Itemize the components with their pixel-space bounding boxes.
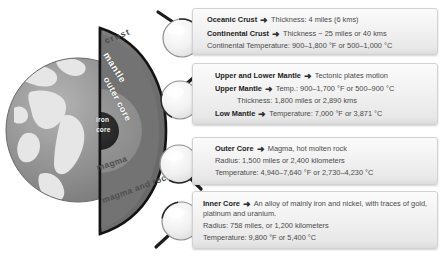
outer-core-line-1-value: Magma, hot molten rock <box>268 144 347 153</box>
crust-line-3-value: Continental Temperature: 900–1,800 °F or… <box>207 41 392 50</box>
outer-core-line-2: Radius: 1,500 miles or 2,400 kilometers <box>215 157 437 165</box>
crust-line-2-value: Thickness ~ 25 miles or 40 kms <box>283 29 387 38</box>
arrow-icon: ➜ <box>303 72 313 81</box>
mantle-line-1-term: Upper and Lower Mantle <box>215 71 301 80</box>
crust-line-1-term: Oceanic Crust <box>207 15 257 24</box>
inner-core-line-3: Temperature: 9,800 °F or 5,400 °C <box>203 234 437 242</box>
diagram-canvas: crust mantle outer core iron core magma … <box>0 0 440 261</box>
outer-core-line-3: Temperature: 4,940–7,640 °F or 2,730–4,2… <box>215 169 437 177</box>
outer-core-line-2-value: Radius: 1,500 miles or 2,400 kilometers <box>215 156 345 165</box>
mantle-line-3-value: Thickness: 1,800 miles or 2,890 kms <box>237 96 357 105</box>
arrow-icon: ➜ <box>271 29 281 38</box>
mantle-line-4-term: Low Mantle <box>215 109 255 118</box>
arrow-icon: ➜ <box>264 85 274 94</box>
arrow-icon: ➜ <box>257 110 267 119</box>
crust-line-2: Continental Crust ➜ Thickness ~ 25 miles… <box>207 29 437 38</box>
info-box-crust: Oceanic Crust ➜ Thickness: 4 miles (6 km… <box>192 8 438 55</box>
outer-core-line-1: Outer Core ➜ Magma, hot molten rock <box>215 144 437 153</box>
arrow-icon: ➜ <box>242 199 252 210</box>
crust-line-1: Oceanic Crust ➜ Thickness: 4 miles (6 km… <box>207 15 437 24</box>
outer-core-line-1-term: Outer Core <box>215 144 254 153</box>
mantle-line-3: Thickness: 1,800 miles or 2,890 kms <box>215 97 437 105</box>
mantle-line-2-term: Upper Mantle <box>215 84 262 93</box>
inner-core-line-1: Inner Core ➜ An alloy of mainly iron and… <box>203 198 437 218</box>
inner-core-line-2: Radius: 758 miles, or 1,200 kilometers <box>203 222 437 230</box>
info-box-outer-core: Outer Core ➜ Magma, hot molten rock Radi… <box>192 137 438 185</box>
mantle-line-2-value: Temp.: 900–1,700 °F or 500–900 °C <box>276 84 395 93</box>
crust-line-3: Continental Temperature: 900–1,800 °F or… <box>207 42 437 50</box>
mantle-line-2: Upper Mantle ➜ Temp.: 900–1,700 °F or 50… <box>215 84 437 93</box>
inner-core-line-2-value: Radius: 758 miles, or 1,200 kilometers <box>203 221 329 230</box>
mantle-line-4-value: Temperature: 7,000 °F or 3,871 °C <box>269 109 382 118</box>
mantle-line-1: Upper and Lower Mantle ➜ Tectonic plates… <box>215 71 437 80</box>
info-box-mantle: Upper and Lower Mantle ➜ Tectonic plates… <box>192 63 438 125</box>
info-box-inner-core: Inner Core ➜ An alloy of mainly iron and… <box>192 191 438 249</box>
outer-core-line-3-value: Temperature: 4,940–7,640 °F or 2,730–4,2… <box>215 168 373 177</box>
inner-core-line-3-value: Temperature: 9,800 °F or 5,400 °C <box>203 233 316 242</box>
crust-line-1-value: Thickness: 4 miles (6 kms) <box>271 15 358 24</box>
crust-line-2-term: Continental Crust <box>207 29 269 38</box>
mantle-line-4: Low Mantle ➜ Temperature: 7,000 °F or 3,… <box>215 109 437 118</box>
arrow-icon: ➜ <box>259 16 269 25</box>
mantle-line-1-value: Tectonic plates motion <box>315 71 388 80</box>
inner-core-line-1-term: Inner Core <box>203 199 240 208</box>
arrow-icon: ➜ <box>256 145 266 154</box>
